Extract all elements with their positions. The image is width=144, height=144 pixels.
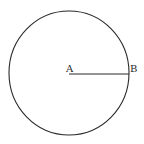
label-a: A — [65, 63, 74, 74]
label-b: B — [130, 63, 137, 74]
circle-diagram: A B — [0, 0, 144, 144]
